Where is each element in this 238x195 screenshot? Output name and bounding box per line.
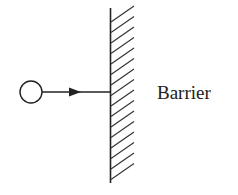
hatch-line [111, 38, 134, 54]
hatch-line [111, 48, 134, 64]
hatch-line [111, 111, 134, 127]
diagram-canvas: Barrier [0, 0, 238, 195]
hatch-line [111, 59, 134, 75]
hatch-line [111, 27, 134, 43]
hatch-line [111, 132, 134, 148]
hatch-line [111, 101, 134, 117]
hatch-line [111, 153, 134, 169]
hatch-line [111, 122, 134, 138]
hatch-line [111, 69, 134, 85]
hatch-line [111, 90, 134, 106]
barrier-label: Barrier [157, 82, 211, 103]
hatch-line [111, 6, 134, 22]
barrier-hatching [111, 6, 134, 180]
hatch-line [111, 80, 134, 96]
hatch-line [111, 164, 134, 180]
arrowhead-icon [69, 88, 81, 97]
ball [20, 81, 42, 103]
hatch-line [111, 17, 134, 33]
hatch-line [111, 143, 134, 159]
